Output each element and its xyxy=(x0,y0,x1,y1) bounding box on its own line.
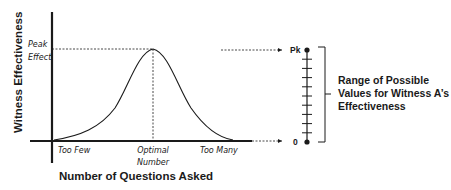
peak-label-line1: Peak xyxy=(28,40,48,49)
witness-effectiveness-diagram: Witness Effectiveness Peak Effect Too Fe… xyxy=(0,0,451,190)
scale-top-label: Pk xyxy=(290,45,301,55)
x-label-optimal-line1: Optimal xyxy=(137,146,169,155)
scale-top-dot xyxy=(304,47,309,52)
range-label-line1: Range of Possible xyxy=(338,74,429,86)
range-label-line2: Values for Witness A’s xyxy=(338,87,449,99)
effectiveness-scale xyxy=(302,47,312,144)
range-label-line3: Effectiveness xyxy=(338,100,406,112)
x-axis-label: Number of Questions Asked xyxy=(59,170,213,182)
y-axis-label: Witness Effectiveness xyxy=(12,12,24,133)
effectiveness-curve xyxy=(54,49,233,140)
scale-bottom-dot xyxy=(304,139,309,144)
scale-bottom-label: 0 xyxy=(293,137,298,147)
range-bracket xyxy=(318,47,331,142)
x-label-too-many: Too Many xyxy=(200,146,238,155)
peak-label-line2: Effect xyxy=(28,53,52,62)
x-label-too-few: Too Few xyxy=(58,146,91,155)
x-label-optimal-line2: Number xyxy=(137,158,170,167)
